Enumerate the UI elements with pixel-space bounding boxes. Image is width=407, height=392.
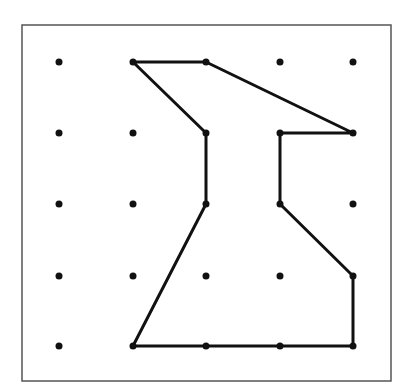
grid-dot-r1-c0	[56, 130, 63, 137]
grid-dot-r2-c1	[130, 201, 137, 208]
grid-dot-r1-c4	[350, 130, 357, 137]
dot-grid-diagram	[0, 0, 407, 392]
grid-dot-r4-c2	[203, 343, 210, 350]
grid-dot-r1-c3	[277, 130, 284, 137]
grid-dot-r2-c2	[203, 201, 210, 208]
grid-dot-r4-c0	[56, 343, 63, 350]
grid-dot-r2-c4	[350, 201, 357, 208]
grid-dot-r2-c3	[277, 201, 284, 208]
grid-dot-r4-c3	[277, 343, 284, 350]
diagram-canvas	[0, 0, 407, 392]
grid-dot-r3-c3	[277, 273, 284, 280]
grid-dots	[56, 59, 357, 350]
grid-dot-r3-c4	[350, 273, 357, 280]
grid-dot-r3-c1	[130, 273, 137, 280]
grid-dot-r4-c1	[130, 343, 137, 350]
grid-dot-r3-c2	[203, 273, 210, 280]
grid-dot-r0-c1	[130, 59, 137, 66]
grid-dot-r0-c4	[350, 59, 357, 66]
grid-dot-r0-c2	[203, 59, 210, 66]
grid-dot-r4-c4	[350, 343, 357, 350]
grid-dot-r2-c0	[56, 201, 63, 208]
grid-dot-r0-c3	[277, 59, 284, 66]
grid-dot-r1-c1	[130, 130, 137, 137]
polygon-shape	[133, 62, 353, 346]
grid-dot-r3-c0	[56, 273, 63, 280]
grid-dot-r0-c0	[56, 59, 63, 66]
grid-dot-r1-c2	[203, 130, 210, 137]
